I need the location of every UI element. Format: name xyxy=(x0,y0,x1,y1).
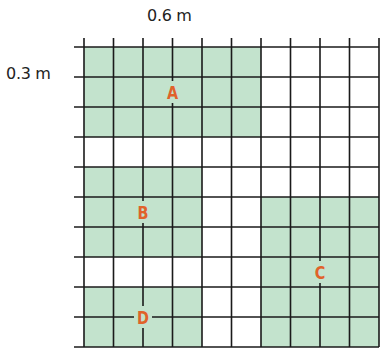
area-grid-diagram: 0.6 m 0.3 m ABCD xyxy=(0,0,389,362)
region-a-label: A xyxy=(167,82,178,103)
region-d-label: D xyxy=(137,307,149,328)
grid: ABCD xyxy=(0,0,389,362)
region-c-label: C xyxy=(315,262,326,283)
region-b-label: B xyxy=(138,202,149,223)
